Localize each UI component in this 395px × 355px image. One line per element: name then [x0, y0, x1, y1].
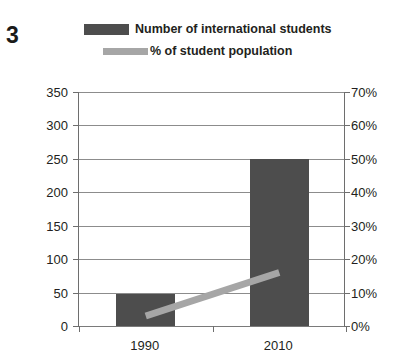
gridline: [79, 326, 344, 327]
y-tick-label-right: 30%: [351, 218, 395, 233]
y-tick-label-left: 300: [22, 118, 68, 133]
y-tick-label-right: 70%: [351, 85, 395, 100]
y-tick-label-right: 60%: [351, 118, 395, 133]
x-tick-label: 1990: [100, 338, 190, 353]
line-swatch-icon: [103, 48, 148, 55]
y-tick-right: [344, 326, 350, 327]
figure-number: 3: [6, 22, 19, 49]
legend-label-line: % of student population: [150, 44, 292, 58]
line-path: [146, 273, 280, 316]
chart-figure: 3 Number of international students % of …: [0, 0, 395, 355]
y-tick-label-left: 250: [22, 151, 68, 166]
x-tick-label: 2010: [233, 338, 323, 353]
y-tick-label-right: 10%: [351, 285, 395, 300]
y-tick-label-left: 100: [22, 252, 68, 267]
legend-item-line: % of student population: [84, 40, 384, 62]
y-tick-label-left: 0: [22, 319, 68, 334]
y-tick-label-right: 0%: [351, 319, 395, 334]
line-series: [79, 92, 346, 326]
y-tick-label-left: 200: [22, 185, 68, 200]
legend-label-bars: Number of international students: [135, 22, 332, 36]
x-tick: [213, 326, 214, 332]
chart-legend: Number of international students % of st…: [84, 18, 384, 62]
y-tick-label-left: 150: [22, 218, 68, 233]
y-tick-label-right: 20%: [351, 252, 395, 267]
x-tick: [346, 326, 347, 332]
y-tick-label-right: 40%: [351, 185, 395, 200]
plot-area: [78, 92, 345, 326]
y-tick-label-left: 350: [22, 85, 68, 100]
x-tick: [79, 326, 80, 332]
y-tick-label-left: 50: [22, 285, 68, 300]
legend-item-bars: Number of international students: [84, 18, 384, 40]
bar-swatch-icon: [84, 24, 129, 35]
y-tick-label-right: 50%: [351, 151, 395, 166]
